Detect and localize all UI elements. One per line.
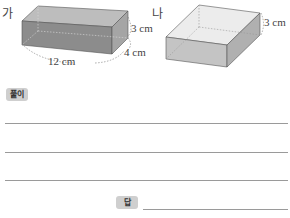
- length-a-label: 12 cm: [48, 55, 75, 67]
- height-b-label: 3 cm: [264, 16, 286, 28]
- cuboid-b-figure: [145, 0, 290, 70]
- width-a-label: 4 cm: [124, 46, 146, 58]
- answer-line[interactable]: [143, 209, 288, 210]
- solution-line-1[interactable]: [5, 123, 288, 124]
- solution-badge: 풀이: [6, 88, 28, 101]
- answer-badge: 답: [116, 196, 138, 209]
- solution-line-3[interactable]: [5, 180, 288, 181]
- solution-line-2[interactable]: [5, 152, 288, 153]
